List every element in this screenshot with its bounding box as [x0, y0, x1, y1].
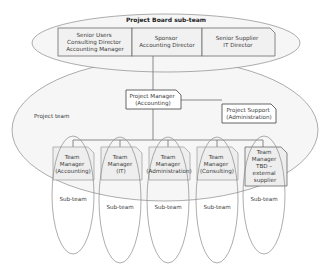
subteam-label-external: Sub-team [250, 196, 277, 202]
subteam-label-administration: Sub-team [154, 204, 181, 210]
project-manager-text: Project Manager (Accounting) [129, 93, 176, 107]
subteam-label-consulting: Sub-team [203, 204, 230, 210]
project-team-label: Project team [34, 113, 69, 120]
board-members: Senior Users Consulting Director Account… [58, 28, 275, 56]
project-board-title: Project Board sub-team [126, 16, 206, 24]
subteam-label-accounting: Sub-team [59, 196, 86, 202]
org-chart-diagram: Project Board sub-team Senior Users Cons… [0, 0, 330, 277]
subteam-label-it: Sub-team [106, 204, 133, 210]
project-support-text: Project Support (Administration) [226, 107, 271, 120]
